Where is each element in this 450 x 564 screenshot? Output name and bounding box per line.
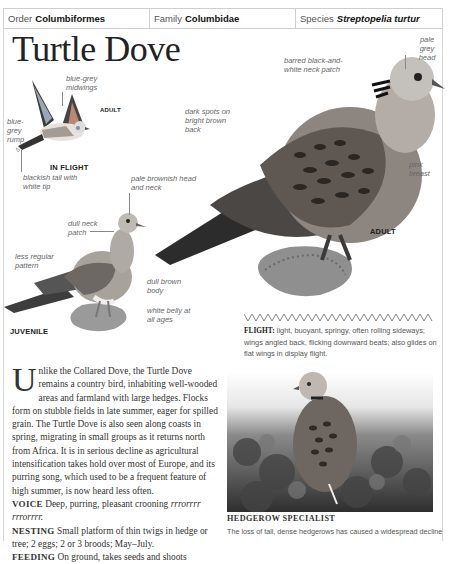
family-value: Columbidae [185, 13, 239, 24]
caption-adult: ADULT [370, 227, 396, 236]
label-blackish-tail: blackish tail with white tip [23, 173, 83, 191]
family-label: Family [154, 13, 182, 24]
feeding-entry: FEEDING On ground, takes seeds and shoot… [12, 551, 218, 564]
adult-dove-illustration [150, 55, 445, 315]
photo-caption-text: The loss of tall, dense hedgerows has ca… [227, 527, 447, 536]
feeding-text: On ground, takes seeds and shoots [57, 552, 186, 562]
taxonomy-header: Order Columbiformes Family Columbidae Sp… [3, 8, 443, 29]
label-dull-neck-patch: dull neck patch [68, 219, 108, 237]
label-blue-grey-midwings: blue-grey midwings [66, 74, 116, 92]
label-pink-breast: pink breast [409, 160, 439, 178]
caption-in-flight: IN FLIGHT [50, 163, 88, 172]
voice-label: VOICE [12, 499, 43, 509]
caption-juvenile: JUVENILE [10, 327, 48, 336]
intro-paragraph: nlike the Collared Dove, the Turtle Dove… [12, 365, 218, 498]
drop-cap: U [12, 366, 37, 394]
voice-entry: VOICE Deep, purring, pleasant crooning r… [12, 498, 218, 525]
species-cell: Species Streptopelia turtur [296, 9, 442, 28]
leader-line [90, 231, 114, 232]
label-dark-spots-back: dark spots on bright brown back [185, 107, 233, 134]
nesting-entry: NESTING Small platform of thin twigs in … [12, 525, 218, 552]
label-pale-grey-head: pale grey head [412, 35, 442, 62]
label-barred-neck-patch: barred black-and- white neck patch [284, 56, 356, 74]
voice-text: Deep, purring, pleasant crooning [45, 499, 168, 509]
order-cell: Order Columbiformes [4, 9, 150, 28]
hedgerow-photo [227, 372, 433, 512]
flying-dove-illustration [14, 80, 104, 160]
top-strip [0, 0, 450, 7]
order-value: Columbiformes [35, 13, 105, 24]
leader-line [405, 55, 406, 69]
flight-note: FLIGHT: light, buoyant, springy, often r… [244, 313, 440, 360]
species-label: Species [300, 13, 334, 24]
label-less-regular-pattern: less regular pattern [15, 252, 55, 270]
leader-line [129, 193, 130, 215]
photo-caption-title: HEDGEROW SPECIALIST [227, 514, 335, 523]
feeding-label: FEEDING [12, 552, 55, 562]
species-description: U nlike the Collared Dove, the Turtle Do… [12, 365, 218, 564]
label-blue-grey-rump: blue- grey rump [7, 117, 27, 144]
species-value: Streptopelia turtur [337, 13, 420, 24]
flight-pattern-zigzag-icon [244, 313, 434, 322]
leader-line [62, 92, 63, 106]
family-cell: Family Columbidae [150, 9, 296, 28]
flight-adult-tag: ADULT [100, 107, 121, 113]
leader-line [21, 150, 22, 172]
order-label: Order [8, 13, 32, 24]
flight-label: FLIGHT: [244, 326, 275, 335]
hedgerow-photo-image [227, 372, 433, 512]
flight-description: FLIGHT: light, buoyant, springy, often r… [244, 325, 440, 360]
nesting-label: NESTING [12, 526, 55, 536]
